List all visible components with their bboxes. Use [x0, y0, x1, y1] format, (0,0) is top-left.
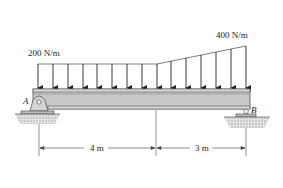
beam-diagram: 200 N/m 400 N/m A [0, 0, 283, 188]
dimension-label-3m: 3 m [195, 143, 209, 153]
roller-support-b [224, 109, 270, 128]
beam [33, 89, 250, 109]
support-label-a: A [22, 96, 29, 106]
dimension-label-4m: 4 m [90, 143, 104, 153]
load-envelope [38, 46, 246, 64]
dimension-lines [39, 110, 246, 156]
load-label-left: 200 N/m [28, 48, 60, 58]
support-label-b: B [251, 105, 257, 115]
load-label-right: 400 N/m [216, 30, 248, 40]
